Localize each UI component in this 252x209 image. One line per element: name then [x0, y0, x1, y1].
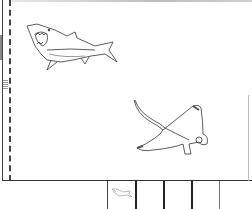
page-slot-2[interactable] [135, 181, 163, 209]
page-slot-4[interactable] [191, 181, 219, 209]
margin-dashed-line [9, 0, 11, 181]
page-slot-5[interactable] [219, 181, 249, 209]
page-slot-3[interactable] [163, 181, 191, 209]
shark-thumbnail-icon [111, 187, 133, 199]
page-slot-1[interactable] [107, 181, 135, 209]
side-label [3, 80, 8, 89]
canvas-right-border [248, 95, 249, 181]
page-thumbnail-strip [107, 181, 249, 209]
vertical-scrollbar-thumb[interactable] [0, 35, 2, 60]
shark-drawing-icon[interactable] [25, 20, 120, 75]
manta-ray-drawing-icon[interactable] [133, 98, 218, 160]
top-shade [10, 0, 252, 2]
canvas-left-border [2, 0, 3, 181]
